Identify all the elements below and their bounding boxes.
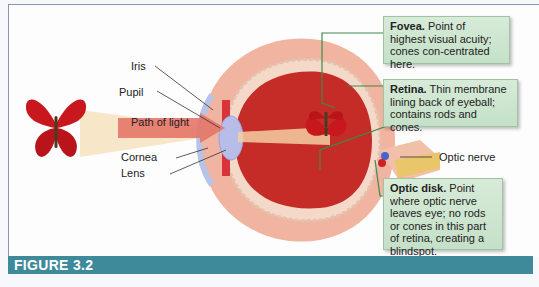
pupil-label: Pupil bbox=[119, 86, 143, 98]
path-of-light-label: Path of light bbox=[131, 116, 189, 128]
butterfly-icon bbox=[26, 100, 86, 157]
figure-caption-bar: FIGURE 3.2 bbox=[8, 256, 533, 274]
fovea-title: Fovea. bbox=[390, 20, 425, 32]
retina-title: Retina. bbox=[390, 83, 427, 95]
retina-callout: Retina. Thin membrane lining back of eye… bbox=[383, 79, 518, 127]
retinal-image-butterfly bbox=[306, 111, 347, 136]
optic-disk-callout: Optic disk. Point where optic nerve leav… bbox=[383, 178, 503, 250]
lens-label: Lens bbox=[121, 167, 145, 179]
optic-disk-title: Optic disk. bbox=[390, 182, 446, 194]
fovea-callout: Fovea. Point of highest visual acuity; c… bbox=[383, 16, 510, 64]
optic-nerve-label: Optic nerve bbox=[439, 151, 495, 163]
figure-label: FIGURE 3.2 bbox=[14, 257, 93, 273]
iris-label: Iris bbox=[131, 60, 146, 72]
cornea-label: Cornea bbox=[121, 151, 157, 163]
